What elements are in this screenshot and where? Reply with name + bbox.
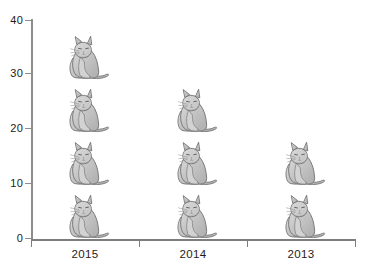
- cat-icon: [164, 134, 222, 187]
- cat-icon: [272, 187, 330, 240]
- y-tick-group-0: 0: [0, 233, 23, 244]
- cat-icon: [272, 134, 330, 187]
- picto-column-2013: [266, 134, 336, 240]
- y-tick-label-30: 30: [1, 68, 23, 79]
- cat-icon: [56, 187, 114, 240]
- y-tick-label-10: 10: [1, 178, 23, 189]
- y-tick-group-10: 10: [0, 178, 23, 189]
- x-tick-end: [355, 240, 356, 247]
- y-tick-label-0: 0: [1, 233, 23, 244]
- cat-icon: [56, 28, 114, 81]
- x-tick-start: [31, 240, 32, 247]
- x-tick-label-2014: 2014: [158, 247, 228, 261]
- x-tick-label-2015: 2015: [50, 247, 120, 261]
- y-tick-group-30: 30: [0, 68, 23, 79]
- x-tick-label-2013: 2013: [266, 247, 336, 261]
- pictograph-chart: 40 30 20 10 0 2015 2014 2013: [0, 0, 371, 272]
- y-tick-mark-40: [25, 20, 31, 21]
- x-tick-divider-2: [247, 240, 248, 247]
- x-tick-divider-1: [139, 240, 140, 247]
- y-tick-label-40: 40: [1, 15, 23, 26]
- y-tick-mark-10: [25, 183, 31, 184]
- cat-icon: [56, 134, 114, 187]
- plot-area: [32, 19, 356, 240]
- y-tick-label-20: 20: [1, 123, 23, 134]
- cat-icon: [56, 81, 114, 134]
- y-tick-group-20: 20: [0, 123, 23, 134]
- picto-column-2014: [158, 81, 228, 240]
- cat-icon: [164, 81, 222, 134]
- y-tick-group-40: 40: [0, 15, 23, 26]
- cat-icon: [164, 187, 222, 240]
- picto-column-2015: [50, 28, 120, 240]
- y-tick-mark-30: [25, 73, 31, 74]
- y-tick-mark-20: [25, 128, 31, 129]
